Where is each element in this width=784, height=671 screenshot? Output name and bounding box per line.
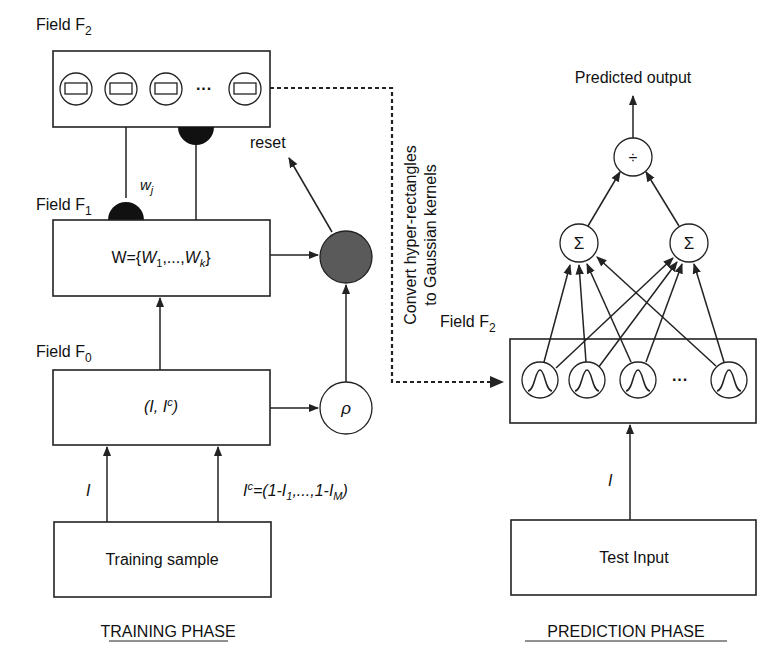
predicted-output-label: Predicted output [575, 69, 692, 86]
fuzzy-artmap-diagram: Field F2 ··· wj Field F1 W={W1,...,Wk} [0, 0, 784, 671]
reset-node [320, 231, 372, 283]
category-node [229, 73, 261, 105]
conversion-label: Convert hyper-rectangles to Gaussian ker… [402, 145, 439, 325]
input-i-label: I [86, 482, 91, 499]
gaussian-kernel-node [711, 362, 747, 398]
prediction-phase-caption: PREDICTION PHASE [547, 623, 704, 640]
divide-symbol: ÷ [629, 149, 638, 166]
field-f1-label: Field F1 [36, 196, 92, 218]
test-input-i-label: I [608, 472, 613, 489]
training-phase-caption: TRAINING PHASE [100, 623, 235, 640]
synapse-f1-icon [108, 202, 144, 220]
conversion-arrowhead-icon [490, 376, 504, 388]
sum-symbol-right: Σ [684, 234, 695, 253]
sum-left-to-divide-arrow [588, 172, 620, 226]
conversion-dashed-connector [270, 88, 492, 382]
category-node [60, 73, 92, 105]
complement-coding-label: Ic=(1-I1,...,1-IM) [243, 480, 348, 502]
reset-label: reset [250, 134, 286, 151]
conversion-label-line2: to Gaussian kernels [422, 164, 439, 305]
sum-symbol-left: Σ [574, 234, 585, 253]
ellipsis: ··· [196, 80, 212, 97]
field-f0-label: Field F0 [36, 343, 92, 365]
kernel-ellipsis: ··· [672, 371, 688, 388]
gaussian-kernel-node [522, 362, 558, 398]
reset-arrow [289, 158, 332, 232]
category-node [150, 73, 182, 105]
training-sample-label: Training sample [105, 551, 218, 568]
category-node [105, 73, 137, 105]
conversion-label-line1: Convert hyper-rectangles [402, 145, 419, 325]
weight-label: wj [140, 176, 154, 196]
rho-label: ρ [340, 399, 351, 418]
f0-input-label: (I, Ic) [144, 396, 178, 415]
gaussian-kernel-node [569, 362, 605, 398]
sum-right-to-divide-arrow [646, 172, 679, 226]
test-input-label: Test Input [599, 549, 669, 566]
synapse-f2-icon [178, 127, 214, 145]
field-f2-label: Field F2 [36, 16, 92, 38]
gaussian-kernel-node [620, 362, 656, 398]
prediction-field-f2-label: Field F2 [440, 313, 496, 335]
